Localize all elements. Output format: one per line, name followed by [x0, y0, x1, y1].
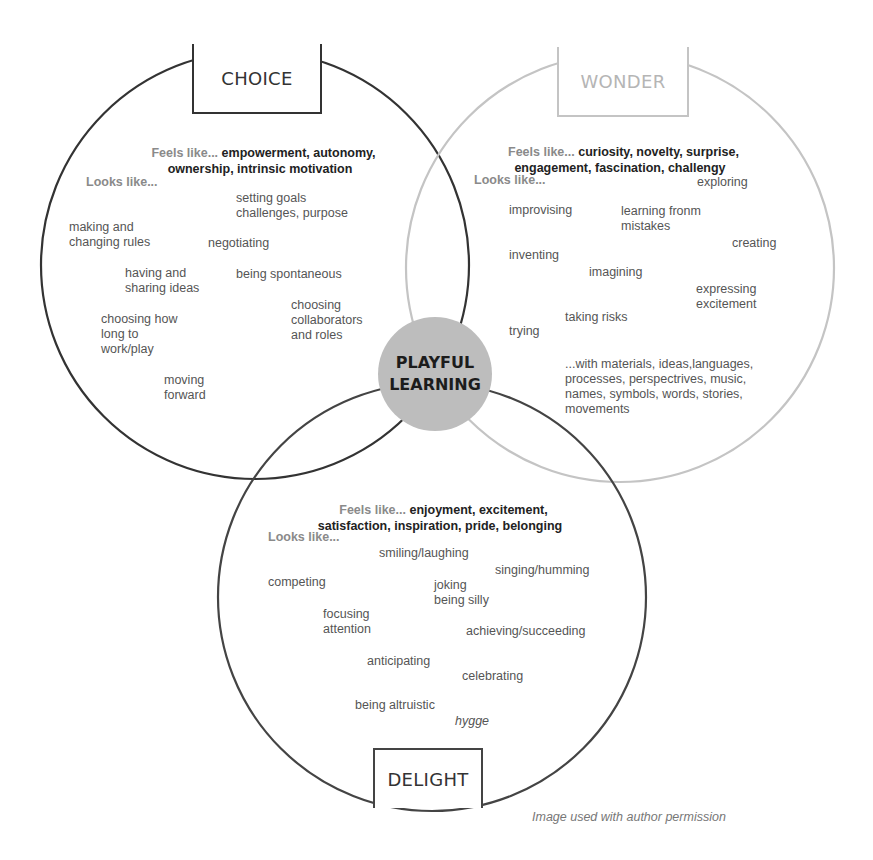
delight-item: focusing attention — [323, 607, 371, 637]
wonder-item: imagining — [589, 265, 643, 280]
delight-looks-label: Looks like... — [268, 530, 340, 544]
choice-item: being spontaneous — [236, 267, 342, 282]
delight-feels-like: Feels like... enjoyment, excitement,sati… — [280, 486, 600, 534]
choice-item: making and changing rules — [69, 220, 150, 250]
choice-item: moving forward — [164, 373, 206, 403]
choice-feels-line2: ownership, intrinsic motivation — [168, 162, 353, 176]
delight-title-box: DELIGHT — [373, 748, 483, 808]
wonder-item: inventing — [509, 248, 559, 263]
wonder-item: trying — [509, 324, 540, 339]
delight-item: hygge — [455, 714, 489, 729]
choice-item: setting goals challenges, purpose — [236, 191, 348, 221]
center-line2: LEARNING — [380, 374, 490, 396]
wonder-feels-label: Feels like... — [508, 145, 575, 159]
delight-item: joking being silly — [434, 578, 489, 608]
wonder-looks-label: Looks like... — [474, 173, 546, 187]
delight-feels-line1: enjoyment, excitement, — [409, 503, 547, 517]
wonder-item: improvising — [509, 203, 572, 218]
delight-item: celebrating — [462, 669, 523, 684]
choice-title-box: CHOICE — [192, 44, 322, 114]
playful-learning-label: PLAYFUL LEARNING — [380, 352, 490, 396]
wonder-item: ...with materials, ideas,languages, proc… — [565, 357, 753, 417]
choice-item: negotiating — [208, 236, 269, 251]
wonder-item: expressing excitement — [696, 282, 756, 312]
choice-item: choosing collaborators and roles — [291, 298, 363, 343]
wonder-item: creating — [732, 236, 776, 251]
choice-item: choosing how long to work/play — [101, 312, 177, 357]
delight-feels-label: Feels like... — [339, 503, 406, 517]
choice-looks-label: Looks like... — [86, 175, 158, 189]
image-caption: Image used with author permission — [532, 810, 726, 824]
choice-feels-line1: empowerment, autonomy, — [222, 146, 376, 160]
choice-feels-label: Feels like... — [151, 146, 218, 160]
wonder-item: learning fronm mistakes — [621, 204, 701, 234]
delight-item: smiling/laughing — [379, 546, 469, 561]
wonder-feels-line1: curiosity, novelty, surprise, — [578, 145, 739, 159]
choice-feels-like: Feels like... empowerment, autonomy,owne… — [100, 129, 420, 177]
delight-item: being altruistic — [355, 698, 435, 713]
wonder-feels-line2: engagement, fascination, challengy — [514, 161, 725, 175]
wonder-feels-like: Feels like... curiosity, novelty, surpri… — [460, 128, 780, 176]
delight-title: DELIGHT — [387, 769, 468, 790]
center-line1: PLAYFUL — [380, 352, 490, 374]
delight-circle — [218, 383, 646, 811]
delight-item: singing/humming — [495, 563, 590, 578]
wonder-item: exploring — [697, 175, 748, 190]
wonder-item: taking risks — [565, 310, 628, 325]
delight-item: competing — [268, 575, 326, 590]
wonder-title-box: WONDER — [557, 47, 689, 117]
delight-item: achieving/succeeding — [466, 624, 586, 639]
choice-item: having and sharing ideas — [125, 266, 199, 296]
wonder-title: WONDER — [581, 71, 666, 92]
delight-feels-line2: satisfaction, inspiration, pride, belong… — [318, 519, 562, 533]
choice-title: CHOICE — [221, 68, 292, 89]
delight-item: anticipating — [367, 654, 430, 669]
